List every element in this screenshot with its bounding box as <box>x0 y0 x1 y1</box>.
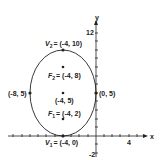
y-tick-12: 12 <box>86 29 94 36</box>
ellipse-diagram: y x 12 -2 4 V2= (-4, 10) F2= (-4, 8) (-4… <box>0 0 166 160</box>
center-label: (-4, 5) <box>55 97 74 105</box>
focus-top-point <box>62 66 65 69</box>
focus-top-label: F2= (-4, 8) <box>48 72 81 81</box>
y-tick-neg2: -2 <box>89 151 95 158</box>
x-ticks <box>13 134 137 137</box>
minor-left-point <box>28 91 31 94</box>
vertex-top-point <box>61 48 64 51</box>
center-point <box>62 92 65 95</box>
minor-right-label: (0, 5) <box>99 90 115 98</box>
vertex-bottom-point <box>61 134 64 137</box>
vertex-bottom-label: V1= (-4, 0) <box>45 139 78 148</box>
vertex-top-label: V2= (-4, 10) <box>45 40 82 49</box>
x-axis-arrow-icon <box>143 134 148 138</box>
focus-bottom-label: F1= (-4, 2) <box>48 110 81 119</box>
points <box>28 48 97 137</box>
x-axis-label: x <box>150 133 154 140</box>
minor-left-label: (-8, 5) <box>8 90 27 98</box>
minor-right-point <box>94 91 97 94</box>
y-axis-label: y <box>95 14 99 22</box>
x-tick-4: 4 <box>127 139 131 146</box>
focus-bottom-point <box>62 118 65 121</box>
